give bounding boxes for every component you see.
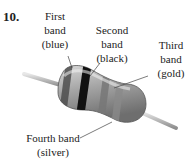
left-lead [24, 74, 64, 86]
leader-fourth [80, 122, 112, 138]
right-lead [140, 112, 176, 128]
resistor-diagram [0, 0, 191, 166]
